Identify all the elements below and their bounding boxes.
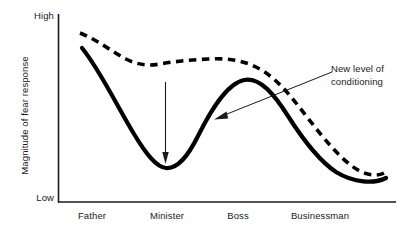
y-axis-tick-low: Low [30,192,54,203]
x-axis-category-minister: Minister [150,210,184,221]
x-axis-category-businessman: Businessman [291,210,349,221]
series-new-conditioning-dashed-line [80,33,386,175]
y-axis-tick-high: High [30,10,54,21]
callout-arrow-head [214,112,228,120]
y-axis-title: Magnitude of fear response [19,36,30,196]
x-axis-category-boss: Boss [227,210,249,221]
new-level-annotation: New level of conditioning [331,63,384,88]
annotation-line-2: conditioning [331,76,384,89]
chart-plot-area [0,0,403,233]
x-axis-category-father: Father [78,210,106,221]
fear-response-chart: Magnitude of fear response High Low Fath… [0,0,403,233]
annotation-line-1: New level of [331,63,384,76]
callout-arrow-shaft [222,72,332,116]
minimum-arrow-head [162,152,168,164]
